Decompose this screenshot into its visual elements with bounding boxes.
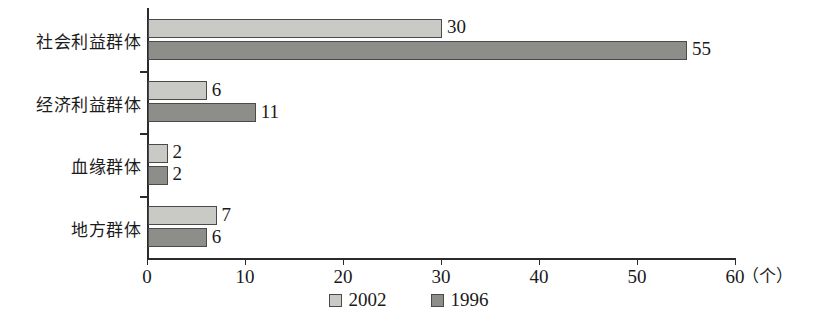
chart-legend: 20021996 bbox=[0, 289, 817, 311]
x-axis-tick bbox=[245, 258, 246, 265]
legend-label: 1996 bbox=[451, 289, 489, 311]
bar-value-label: 6 bbox=[212, 226, 222, 248]
x-axis-tick-label: 20 bbox=[321, 266, 365, 288]
axis-unit-annotation: （个） bbox=[742, 262, 793, 287]
bar-value-label: 55 bbox=[692, 38, 711, 60]
bar-2002-社会利益群体 bbox=[148, 19, 442, 38]
x-axis-tick-label: 50 bbox=[615, 266, 659, 288]
x-axis-tick-label: 30 bbox=[419, 266, 463, 288]
x-axis-tick bbox=[637, 258, 638, 265]
x-axis-tick-label: 0 bbox=[125, 266, 169, 288]
light-gray-swatch bbox=[329, 294, 342, 307]
bar-2002-血缘群体 bbox=[148, 144, 168, 163]
legend-item-1996[interactable]: 1996 bbox=[431, 289, 489, 311]
bar-value-label: 2 bbox=[173, 163, 183, 185]
x-axis-tick-label: 40 bbox=[517, 266, 561, 288]
bar-value-label: 7 bbox=[222, 204, 232, 226]
bar-value-label: 6 bbox=[212, 79, 222, 101]
bar-value-label: 30 bbox=[447, 16, 466, 38]
bar-1996-血缘群体 bbox=[148, 166, 168, 185]
bar-2002-地方群体 bbox=[148, 206, 217, 225]
bar-2002-经济利益群体 bbox=[148, 81, 207, 100]
x-axis-tick-label: 10 bbox=[223, 266, 267, 288]
y-axis-tick bbox=[140, 71, 147, 73]
plot-area: 010203040506030556112276 bbox=[147, 8, 735, 258]
y-axis-tick bbox=[140, 133, 147, 135]
x-axis-tick bbox=[343, 258, 344, 265]
category-axis-labels: 社会利益群体经济利益群体血缘群体地方群体 bbox=[0, 0, 141, 260]
bar-1996-地方群体 bbox=[148, 228, 207, 247]
category-label: 地方群体 bbox=[3, 216, 141, 241]
x-axis-tick bbox=[735, 258, 736, 265]
legend-item-2002[interactable]: 2002 bbox=[329, 289, 387, 311]
legend-label: 2002 bbox=[349, 289, 387, 311]
bar-1996-经济利益群体 bbox=[148, 103, 256, 122]
bar-value-label: 11 bbox=[261, 101, 279, 123]
x-axis-tick bbox=[147, 258, 148, 265]
category-label: 血缘群体 bbox=[3, 153, 141, 178]
dark-gray-swatch bbox=[431, 294, 444, 307]
y-axis-tick bbox=[140, 196, 147, 198]
category-label: 社会利益群体 bbox=[3, 28, 141, 53]
bar-chart: 社会利益群体经济利益群体血缘群体地方群体 0102030405060305561… bbox=[0, 0, 817, 315]
bar-value-label: 2 bbox=[173, 141, 183, 163]
bar-1996-社会利益群体 bbox=[148, 41, 687, 60]
x-axis-tick bbox=[539, 258, 540, 265]
x-axis-tick bbox=[441, 258, 442, 265]
category-label: 经济利益群体 bbox=[3, 91, 141, 116]
